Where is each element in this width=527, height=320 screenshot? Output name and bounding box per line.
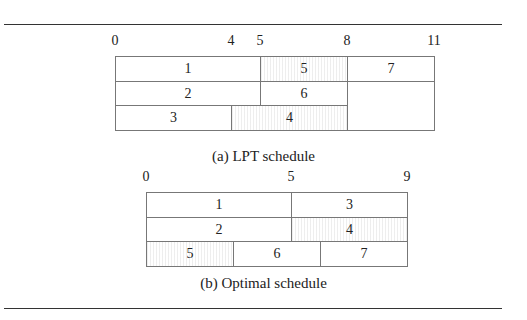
lpt-tick: 5	[257, 34, 264, 48]
bottom-rule	[4, 308, 502, 309]
lpt-caption: (a) LPT schedule	[0, 148, 527, 165]
lpt-tick: 8	[344, 34, 351, 48]
lpt-tick: 0	[112, 34, 119, 48]
optimal-tick: 5	[288, 170, 295, 184]
lpt-chart-frame	[115, 56, 435, 131]
optimal-tick: 9	[404, 170, 411, 184]
lpt-tick: 4	[228, 34, 235, 48]
top-rule	[4, 24, 502, 25]
optimal-chart-frame	[146, 192, 408, 267]
optimal-tick: 0	[143, 170, 150, 184]
lpt-tick: 11	[427, 34, 440, 48]
optimal-caption: (b) Optimal schedule	[0, 275, 527, 292]
